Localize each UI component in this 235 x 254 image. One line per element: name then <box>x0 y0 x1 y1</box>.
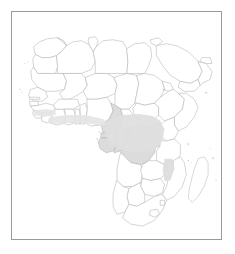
country-niger <box>83 73 117 99</box>
country-burkina-faso <box>54 99 80 109</box>
island-cape-verde-2 <box>21 92 22 93</box>
map-frame <box>11 11 222 240</box>
island-seychelles <box>210 148 211 149</box>
graticule-tick-ne <box>205 91 208 94</box>
figure-root <box>0 0 235 254</box>
island-madagascar <box>188 157 208 203</box>
graticule-tick-se <box>212 157 215 160</box>
graticule-tick-e <box>187 143 189 145</box>
country-libya <box>93 40 128 74</box>
country-gambia <box>30 97 40 99</box>
island-canary-2 <box>24 63 25 64</box>
island-mauritius <box>215 180 216 181</box>
island-canary <box>27 61 28 62</box>
island-comoros-2 <box>191 162 192 163</box>
country-chad <box>114 73 139 109</box>
island-comoros <box>188 160 189 161</box>
island-bioko <box>99 131 100 132</box>
island-cape-verde <box>19 89 20 90</box>
country-jordan <box>151 38 163 46</box>
country-eswatini <box>161 200 165 205</box>
country-egypt <box>127 43 152 74</box>
country-western-sahara <box>33 55 58 74</box>
africa-map <box>12 12 221 239</box>
island-sao-tome <box>96 138 97 139</box>
country-saudi-arabia <box>157 44 203 84</box>
